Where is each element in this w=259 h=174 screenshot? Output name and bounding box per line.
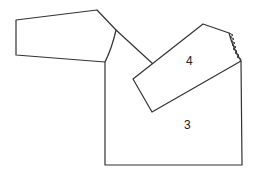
pattern-diagram: 4 3 [0, 0, 259, 174]
piece-3-label: 3 [184, 118, 191, 132]
sleeve-shape [16, 10, 116, 62]
piece-4-label: 4 [186, 54, 193, 68]
